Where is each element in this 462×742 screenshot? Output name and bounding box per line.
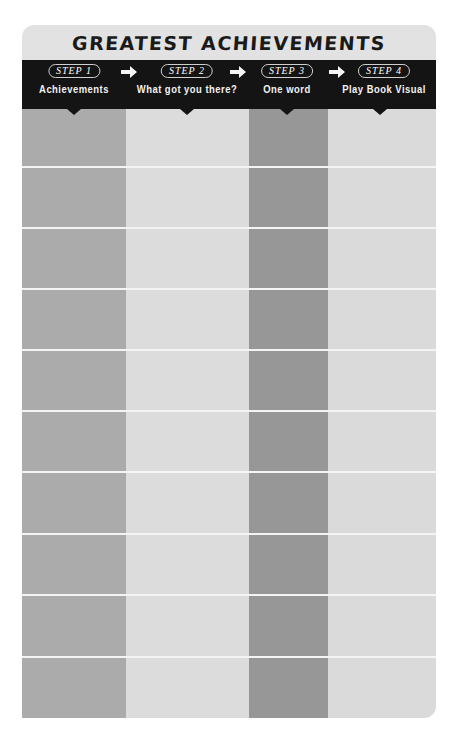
worksheet-grid	[22, 109, 436, 718]
step-4: STEP 4 Play Book Visual	[333, 64, 435, 95]
steps-header: STEP 1 Achievements STEP 2 What got you …	[22, 60, 436, 109]
column-play-book-visual[interactable]	[328, 109, 436, 718]
step-badge: STEP 3	[261, 64, 313, 78]
worksheet-title: GREATEST ACHIEVEMENTS	[22, 25, 436, 60]
step-2-pointer-icon	[180, 109, 194, 115]
row-divider	[22, 349, 436, 351]
column-achievements[interactable]	[22, 109, 126, 718]
row-divider	[22, 227, 436, 229]
worksheet-card: GREATEST ACHIEVEMENTS STEP 1 Achievement…	[22, 25, 436, 718]
row-divider	[22, 471, 436, 473]
step-badge: STEP 2	[161, 64, 213, 78]
row-divider	[22, 410, 436, 412]
step-3: STEP 3 One word	[258, 64, 316, 95]
row-divider	[22, 594, 436, 596]
right-arrow-icon	[230, 66, 246, 78]
row-divider	[22, 533, 436, 535]
step-label: One word	[263, 83, 310, 95]
row-divider	[22, 656, 436, 658]
step-label: Achievements	[39, 83, 109, 95]
step-3-pointer-icon	[280, 109, 294, 115]
column-what-got-you-there[interactable]	[126, 109, 249, 718]
row-divider	[22, 288, 436, 290]
step-badge: STEP 1	[48, 64, 100, 78]
step-label: Play Book Visual	[342, 83, 426, 95]
step-label: What got you there?	[137, 83, 238, 95]
step-badge: STEP 4	[358, 64, 410, 78]
step-4-pointer-icon	[373, 109, 387, 115]
row-divider	[22, 166, 436, 168]
step-1: STEP 1 Achievements	[31, 64, 116, 95]
column-one-word[interactable]	[249, 109, 328, 718]
step-1-pointer-icon	[67, 109, 81, 115]
